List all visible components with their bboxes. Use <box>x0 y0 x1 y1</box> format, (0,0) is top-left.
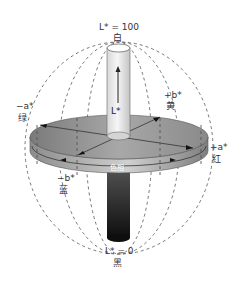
top-cylinder <box>107 44 130 140</box>
black-label: 黑 <box>113 258 122 269</box>
white-label: 白 <box>113 33 122 44</box>
l-axis-label: L* <box>111 106 121 117</box>
l-min-value-label: L* = 0 <box>105 246 134 257</box>
pos-b-label: +b* <box>164 90 182 101</box>
neg-b-label: −b* <box>57 173 75 184</box>
neg-a-label: −a* <box>16 101 34 112</box>
blue-label: 蓝 <box>59 185 68 196</box>
l-max-value-label: L* = 100 <box>99 22 139 33</box>
red-label: 红 <box>212 154 221 165</box>
green-label: 绿 <box>18 113 27 124</box>
pos-a-label: +a* <box>210 142 228 153</box>
hue-label: 色相 <box>110 164 124 172</box>
yellow-label: 黄 <box>166 101 175 112</box>
lab-color-space-diagram: L* = 100 白 L* +b* 黄 −a* 绿 +a* 红 −b* 蓝 色相… <box>0 0 239 285</box>
